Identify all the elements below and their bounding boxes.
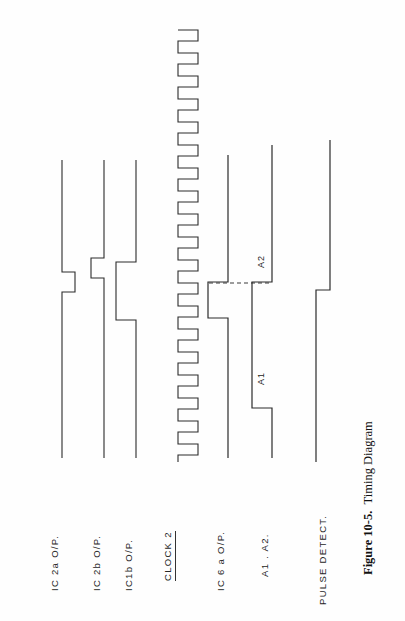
- signal-label-ic2b: IC 2b O/P.: [91, 535, 102, 591]
- waveform-traces: [0, 0, 405, 621]
- trace-ic6a: [208, 155, 228, 458]
- figure-caption-number: Figure 10-5.: [361, 511, 375, 575]
- trace-ic2b: [91, 160, 104, 458]
- trace-ic1b: [116, 160, 136, 458]
- figure-caption-title: Timing Diagram: [361, 421, 375, 504]
- signal-label-a1a2: A1 . A2.: [259, 533, 270, 577]
- page-canvas: IC 2a O/P. IC 2b O/P. IC1b O/P. CLOCK 2 …: [0, 0, 405, 621]
- trace-a1a2: [252, 145, 272, 458]
- figure-caption: Figure 10-5. Timing Diagram: [361, 421, 376, 575]
- signal-label-ic2a: IC 2a O/P.: [49, 535, 60, 591]
- signal-label-ic6a: IC 6 a O/P.: [215, 531, 226, 591]
- signal-label-clock2: CLOCK 2: [162, 531, 176, 581]
- annotation-a2: A2: [256, 255, 266, 268]
- trace-ic2a: [62, 160, 75, 458]
- timing-diagram-figure: IC 2a O/P. IC 2b O/P. IC1b O/P. CLOCK 2 …: [0, 0, 405, 621]
- trace-pulse-detect: [316, 140, 330, 462]
- signal-label-pulse-detect: PULSE DETECT.: [317, 515, 328, 605]
- annotation-a1: A1: [256, 372, 266, 385]
- signal-label-ic1b: IC1b O/P.: [123, 539, 134, 591]
- trace-clock2: [178, 30, 198, 462]
